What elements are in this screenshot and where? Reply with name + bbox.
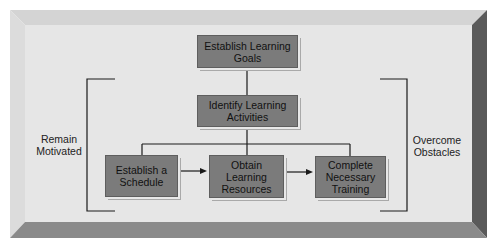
node-label: Complete Necessary Training: [320, 159, 381, 195]
node-label: Establish Learning Goals: [202, 40, 293, 64]
label-overcome-obstacles: Overcome Obstacles: [410, 134, 464, 158]
bevel-right: [472, 10, 487, 238]
node-complete-necessary-training: Complete Necessary Training: [315, 156, 386, 198]
bevel-left: [10, 10, 25, 238]
label-text: Overcome Obstacles: [413, 134, 461, 158]
node-establish-learning-goals: Establish Learning Goals: [197, 35, 298, 68]
node-label: Obtain Learning Resources: [214, 159, 279, 195]
label-remain-motivated: Remain Motivated: [34, 133, 84, 157]
bevel-top: [10, 10, 487, 25]
node-obtain-learning-resources: Obtain Learning Resources: [209, 155, 284, 198]
node-establish-schedule: Establish a Schedule: [105, 155, 178, 197]
bevel-bottom: [10, 222, 487, 238]
node-label: Establish a Schedule: [110, 164, 173, 188]
label-text: Remain Motivated: [36, 133, 82, 157]
node-label: Identify Learning Activities: [202, 99, 293, 123]
node-identify-learning-activities: Identify Learning Activities: [197, 95, 298, 127]
